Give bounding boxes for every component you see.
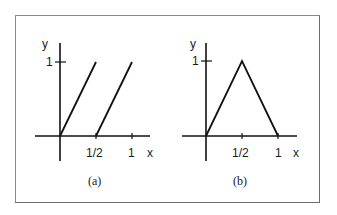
triangle-line [206, 61, 278, 136]
line-segment-1 [60, 62, 96, 136]
y-axis-label: y [42, 37, 48, 51]
x-axis-label: x [293, 146, 299, 160]
x-tick-label-half: 1/2 [232, 146, 249, 160]
y-axis-label: y [190, 37, 196, 51]
caption-a: (a) [88, 174, 101, 188]
x-tick-label-1: 1 [128, 146, 135, 160]
caption-b: (b) [233, 174, 247, 188]
panel-b: y 1 1/2 1 x (b) [182, 37, 299, 188]
line-segment-2 [96, 62, 132, 136]
panel-a: y 1 1/2 1 x (a) [35, 37, 153, 188]
x-tick-label-1: 1 [275, 146, 282, 160]
figure-canvas: y 1 1/2 1 x (a) y 1 1/2 1 x (b) [0, 0, 337, 215]
x-tick-label-half: 1/2 [86, 146, 103, 160]
y-tick-label: 1 [46, 55, 53, 69]
x-axis-label: x [147, 146, 153, 160]
y-tick-label: 1 [192, 54, 199, 68]
